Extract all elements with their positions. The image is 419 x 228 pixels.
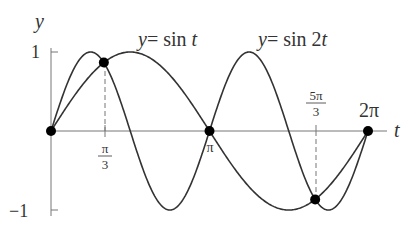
intersection-point <box>46 126 56 136</box>
x-tick-label-2pi: 2π <box>359 99 379 121</box>
y-axis-label: y <box>33 10 44 33</box>
x-tick-label-pi3-den: 3 <box>102 157 109 172</box>
t-axis-label: t <box>394 119 400 141</box>
y-tick-label-1: 1 <box>31 42 40 62</box>
x-tick-label-5pi3-num: 5π <box>309 88 323 103</box>
intersection-point <box>310 194 320 204</box>
intersection-point <box>363 126 373 136</box>
annotation-sin-2t: y= sin 2t <box>256 28 328 51</box>
annotation-sin-t: y= sin t <box>136 28 198 51</box>
y-tick-label-neg1: −1 <box>9 201 28 221</box>
x-tick-label-pi3-num: π <box>102 141 109 156</box>
intersection-point <box>205 126 215 136</box>
x-tick-label-pi: π <box>206 140 213 155</box>
intersection-point <box>99 58 109 68</box>
x-tick-label-5pi3-den: 3 <box>313 104 320 119</box>
chart-canvas: y t 1 −1 π 3 π 5π 3 2π y= sin t y= sin 2… <box>0 0 419 228</box>
